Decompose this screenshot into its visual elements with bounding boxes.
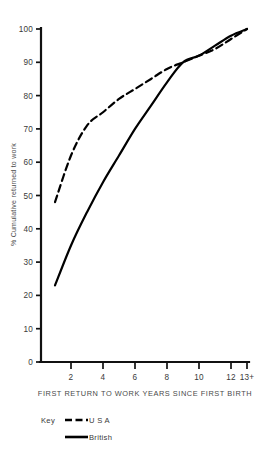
x-tick-label: 2 bbox=[69, 373, 74, 382]
y-axis-group: 0102030405060708090100 bbox=[19, 25, 41, 367]
x-tick-label: 4 bbox=[101, 373, 106, 382]
x-tick-label: 12 bbox=[226, 373, 236, 382]
x-axis-tick-labels: 2468101213+ bbox=[69, 373, 255, 382]
chart-figure: 0102030405060708090100 2468101213+ % Cum… bbox=[0, 0, 269, 452]
x-axis-group: 2468101213+ bbox=[40, 362, 254, 382]
x-tick-label: 10 bbox=[194, 373, 204, 382]
series-line-usa bbox=[55, 29, 247, 202]
legend-label-british: British bbox=[89, 433, 112, 442]
y-tick-label: 100 bbox=[19, 25, 34, 34]
series-line-british bbox=[55, 29, 247, 285]
y-tick-label: 10 bbox=[23, 325, 33, 334]
y-tick-label: 50 bbox=[23, 192, 33, 201]
y-tick-label: 40 bbox=[23, 225, 33, 234]
series-group bbox=[55, 29, 247, 285]
y-tick-label: 60 bbox=[23, 158, 33, 167]
y-tick-label: 90 bbox=[23, 58, 33, 67]
y-tick-label: 20 bbox=[23, 291, 33, 300]
legend-key-label: Key bbox=[41, 416, 55, 425]
y-tick-label: 80 bbox=[23, 92, 33, 101]
y-tick-label: 30 bbox=[23, 258, 33, 267]
legend-label-usa: U S A bbox=[89, 416, 111, 425]
chart-legend: Key U S A British bbox=[41, 416, 112, 442]
x-tick-label: 13+ bbox=[240, 373, 255, 382]
y-tick-label: 70 bbox=[23, 125, 33, 134]
x-axis-title: FIRST RETURN TO WORK YEARS SINCE FIRST B… bbox=[38, 389, 252, 398]
y-axis-tick-labels: 0102030405060708090100 bbox=[19, 25, 34, 367]
y-axis-title: % Cumulative returned to work bbox=[10, 143, 17, 246]
line-chart-svg: 0102030405060708090100 2468101213+ % Cum… bbox=[0, 0, 269, 452]
x-tick-label: 8 bbox=[165, 373, 170, 382]
y-tick-label: 0 bbox=[28, 358, 33, 367]
x-tick-label: 6 bbox=[133, 373, 138, 382]
